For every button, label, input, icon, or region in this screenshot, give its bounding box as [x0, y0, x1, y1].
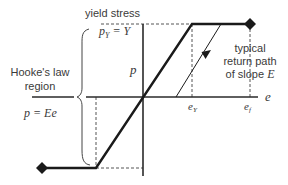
return-path-label-line2: return path	[223, 55, 276, 67]
hookes-law-label-line2: region	[25, 80, 56, 92]
stress-strain-curve	[42, 24, 250, 168]
hookes-law-equation: p = Ee	[23, 106, 57, 120]
stress-strain-diagram: yield stress pY = Y Hooke's law region p…	[0, 0, 288, 185]
yield-stress-label: yield stress	[85, 7, 141, 19]
fracture-diamond-icon	[244, 18, 256, 30]
horizontal-axis-label: e	[265, 89, 271, 104]
return-path-line	[176, 24, 221, 97]
dashed-guides	[96, 24, 250, 168]
return-path-arrow-icon	[202, 50, 212, 59]
ey-tick-label: eY	[188, 100, 198, 114]
diagram-canvas: yield stress pY = Y Hooke's law region p…	[0, 0, 288, 185]
return-path-label-line1: typical	[234, 42, 265, 54]
return-path-label-line3: of slope E	[226, 67, 276, 81]
yield-equation: pY = Y	[98, 24, 132, 40]
ef-tick-label: ef	[244, 100, 252, 114]
neg-fracture-diamond-icon	[36, 162, 48, 174]
axes	[32, 24, 258, 176]
hookes-law-label-line1: Hooke's law	[11, 66, 70, 78]
vertical-axis-label: p	[129, 62, 137, 77]
